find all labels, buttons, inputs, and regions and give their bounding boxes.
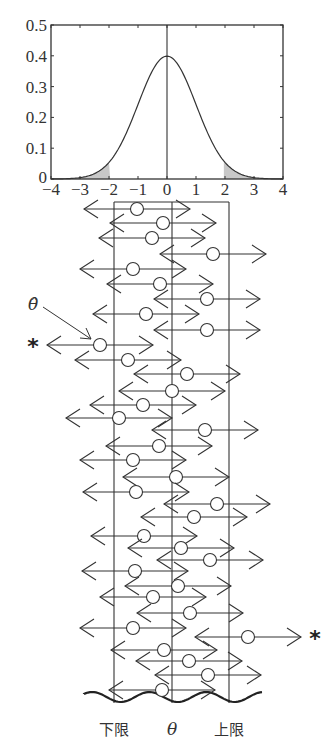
interval-row — [137, 604, 243, 622]
estimate-point — [156, 684, 169, 697]
wavy-break-line — [84, 692, 262, 702]
interval-row — [80, 260, 186, 278]
interval-row — [66, 409, 172, 427]
interval-row — [125, 577, 231, 595]
x-tick-label: −2 — [100, 180, 118, 199]
x-tick-label: −3 — [71, 180, 89, 199]
theta-text: θ — [167, 719, 177, 739]
estimate-point — [211, 498, 224, 511]
x-tick-label: −1 — [129, 180, 147, 199]
interval-row: * — [195, 626, 321, 651]
estimate-point — [154, 278, 167, 291]
upper-limit-text: 上限 — [214, 721, 244, 739]
estimate-point — [158, 644, 171, 657]
estimate-point — [201, 293, 214, 306]
interval-row — [80, 619, 186, 637]
y-tick-label: 0.1 — [26, 139, 47, 158]
x-tick-label: 1 — [192, 180, 201, 199]
estimate-point — [131, 203, 144, 216]
confidence-interval-diagram: −4−3−2−10123400.10.20.30.40.5 下限θ上限 ** θ… — [0, 0, 336, 751]
x-tick-label: 4 — [279, 180, 288, 199]
y-tick-label: 0.5 — [26, 16, 47, 35]
estimate-point — [122, 354, 135, 367]
estimate-point — [153, 440, 166, 453]
estimate-point — [242, 631, 255, 644]
estimate-point — [188, 511, 201, 524]
annotations: θ̂ — [28, 294, 91, 339]
x-tick-label: 3 — [250, 180, 259, 199]
estimate-point — [157, 217, 170, 230]
y-tick-label: 0.2 — [26, 108, 47, 127]
estimate-point — [181, 368, 194, 381]
interval-row — [154, 321, 260, 339]
y-tick-label: 0.4 — [26, 47, 48, 66]
interval-row — [155, 666, 261, 684]
interval-row — [84, 200, 190, 218]
estimate-point — [172, 580, 185, 593]
y-tick-label: 0 — [39, 168, 48, 187]
estimate-point — [129, 565, 142, 578]
interval-row — [75, 351, 181, 369]
interval-box: 下限θ上限 — [84, 202, 262, 739]
interval-row — [152, 421, 258, 439]
interval-row — [154, 290, 260, 308]
interval-row — [157, 551, 263, 569]
diagram-canvas: −4−3−2−10123400.10.20.30.40.5 下限θ上限 ** θ… — [0, 0, 336, 751]
interval-row — [134, 365, 240, 383]
asterisk-marker: * — [309, 626, 321, 651]
interval-row — [119, 382, 225, 400]
estimate-point — [146, 232, 159, 245]
asterisk-marker: * — [27, 334, 39, 359]
estimate-point — [183, 655, 196, 668]
estimate-point — [127, 263, 140, 276]
interval-row — [93, 305, 199, 323]
shaded-tail-left — [51, 162, 110, 179]
interval-row — [136, 652, 242, 670]
pointer-line — [43, 307, 91, 339]
estimate-point — [94, 339, 107, 352]
estimate-point — [166, 385, 179, 398]
interval-rows: ** — [27, 200, 321, 699]
estimate-point — [207, 248, 220, 261]
normal-density-plot: −4−3−2−10123400.10.20.30.40.5 — [26, 16, 288, 199]
interval-row — [160, 245, 266, 263]
theta-hat-label: θ̂ — [28, 294, 38, 314]
estimate-point — [130, 486, 143, 499]
estimate-point — [137, 399, 150, 412]
interval-row — [111, 641, 217, 659]
x-tick-label: 2 — [221, 180, 230, 199]
estimate-point — [201, 324, 214, 337]
estimate-point — [113, 412, 126, 425]
interval-row — [141, 508, 247, 526]
interval-row — [107, 275, 213, 293]
estimate-point — [202, 669, 215, 682]
interval-row — [106, 437, 212, 455]
lower-limit-text: 下限 — [99, 721, 129, 739]
estimate-point — [204, 554, 217, 567]
estimate-point — [147, 591, 160, 604]
estimate-point — [184, 607, 197, 620]
estimate-point — [175, 542, 188, 555]
estimate-point — [127, 454, 140, 467]
estimate-point — [127, 622, 140, 635]
interval-row — [100, 588, 206, 606]
estimate-point — [140, 308, 153, 321]
estimate-point — [199, 424, 212, 437]
interval-row — [110, 214, 216, 232]
x-tick-label: 0 — [163, 180, 172, 199]
interval-row — [80, 451, 186, 469]
interval-row — [99, 229, 205, 247]
interval-row — [109, 681, 215, 699]
estimate-point — [170, 471, 183, 484]
interval-row — [90, 396, 196, 414]
y-tick-label: 0.3 — [26, 78, 47, 97]
